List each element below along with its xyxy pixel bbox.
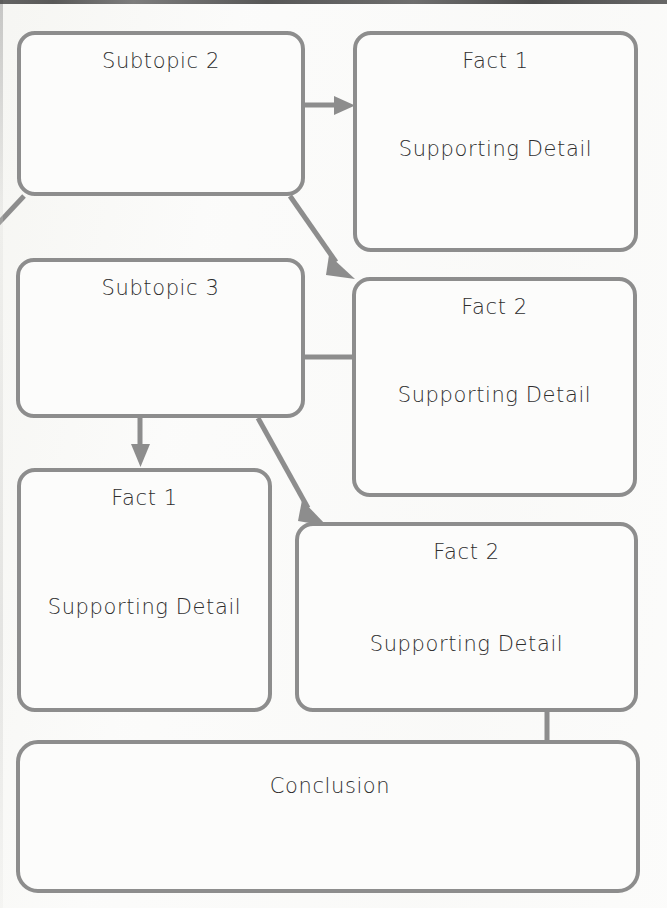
- node-conclusion[interactable]: Conclusion: [16, 740, 640, 893]
- node-subtopic-3-fact-1-detail: Supporting Detail: [21, 597, 268, 618]
- node-subtopic-3-fact-2-detail: Supporting Detail: [299, 634, 634, 655]
- node-subtopic-2-fact-1-detail: Supporting Detail: [357, 139, 634, 160]
- scan-edge-top: [0, 0, 667, 4]
- node-subtopic-3-fact-2-title: Fact 2: [299, 542, 634, 563]
- connector-subtopic-2-to-fact-1: [305, 96, 355, 115]
- node-subtopic-3-title: Subtopic 3: [20, 278, 301, 299]
- node-subtopic-2-fact-1-title: Fact 1: [357, 51, 634, 72]
- node-subtopic-2-fact-2-detail: Supporting Detail: [356, 385, 633, 406]
- node-conclusion-title: Conclusion: [20, 776, 640, 797]
- node-subtopic-3-fact-2[interactable]: Fact 2 Supporting Detail: [295, 522, 638, 712]
- node-subtopic-3[interactable]: Subtopic 3: [16, 258, 305, 418]
- scan-edge-left: [0, 0, 3, 908]
- node-subtopic-2-title: Subtopic 2: [21, 51, 301, 72]
- node-subtopic-2-fact-2[interactable]: Fact 2 Supporting Detail: [352, 277, 637, 497]
- node-subtopic-3-fact-1[interactable]: Fact 1 Supporting Detail: [17, 468, 272, 712]
- node-subtopic-2[interactable]: Subtopic 2: [17, 31, 305, 196]
- connector-subtopic-3-to-fact-1: [131, 418, 150, 467]
- concept-map-canvas: Subtopic 2 Fact 1 Supporting Detail Subt…: [0, 0, 667, 908]
- node-subtopic-2-fact-1[interactable]: Fact 1 Supporting Detail: [353, 31, 638, 252]
- node-subtopic-3-fact-1-title: Fact 1: [21, 488, 268, 509]
- connector-offscreen-to-subtopic-2: [0, 196, 24, 228]
- node-subtopic-2-fact-2-title: Fact 2: [356, 297, 633, 318]
